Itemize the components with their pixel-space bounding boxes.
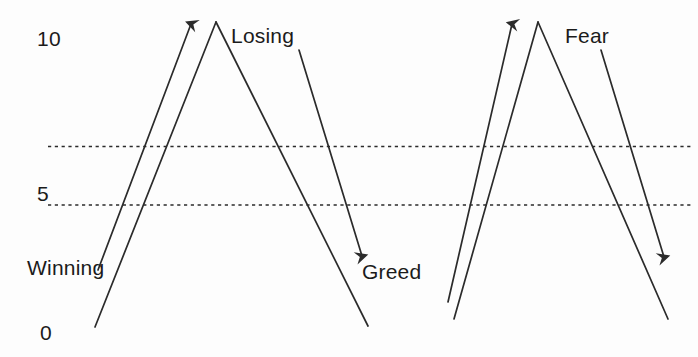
fear-fall-arrow [601,50,664,257]
annotation-greed: Greed [362,261,421,283]
annotation-winning: Winning [27,257,104,279]
cycle-outline-peak-2 [454,22,668,319]
y-axis-tick-5: 5 [37,183,49,205]
peak-2-rising-edge [454,22,538,319]
cycle-outline-peak-1 [95,22,368,327]
annotation-losing: Losing [231,25,294,47]
gridline-group [48,147,692,206]
peak-1-falling-edge [216,22,368,326]
peak-1-rising-edge [95,22,216,327]
chart-canvas [0,0,698,357]
peak-2-falling-edge [538,22,668,319]
greed-rise-arrow [448,24,512,302]
emotion-cycle-diagram: 10 5 0 Winning Losing Greed Fear [0,0,698,357]
y-axis-tick-0: 0 [40,322,52,344]
y-axis-tick-10: 10 [37,28,61,50]
losing-fall-arrow [299,50,362,256]
annotation-fear: Fear [565,25,609,47]
